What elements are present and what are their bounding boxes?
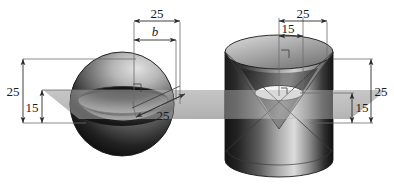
diagram-canvas: 25 b 25 15 25 25 15 25 15 bbox=[0, 0, 394, 184]
geometry-figure: 25 b 25 15 25 25 15 25 15 bbox=[0, 0, 394, 184]
left-top-inner-label: b bbox=[152, 24, 159, 39]
left-top-outer-label: 25 bbox=[151, 6, 164, 21]
right-vertical-outer-label: 25 bbox=[375, 84, 388, 99]
right-vertical-inner-label: 15 bbox=[356, 100, 369, 115]
right-top-inner-label: 15 bbox=[282, 21, 295, 36]
left-vertical-outer-label: 25 bbox=[7, 84, 20, 99]
right-top-outer-label: 25 bbox=[297, 6, 310, 21]
left-vertical-inner-label: 15 bbox=[26, 100, 39, 115]
left-diagonal-label: 25 bbox=[157, 108, 170, 123]
